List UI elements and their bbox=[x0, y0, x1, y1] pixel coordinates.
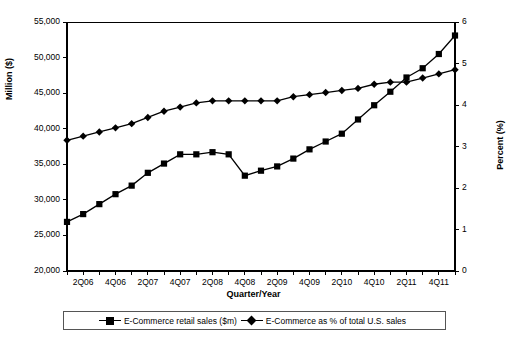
x-axis-tick-label: 4Q08 bbox=[227, 278, 263, 287]
chart-axes bbox=[63, 22, 459, 275]
y-axis-left-title: Million ($) bbox=[4, 34, 14, 124]
y-axis-left-tick-label: 30,000 bbox=[8, 195, 60, 204]
data-point-square-marker bbox=[129, 183, 135, 189]
y-axis-right-tick-label: 0 bbox=[462, 266, 486, 275]
chart-container: 20,00025,00030,00035,00040,00045,00050,0… bbox=[0, 0, 507, 340]
data-point-square-marker bbox=[226, 151, 232, 157]
data-point-square-marker bbox=[177, 151, 183, 157]
y-axis-right-tick-label: 5 bbox=[462, 59, 486, 68]
x-axis-title: Quarter/Year bbox=[0, 289, 507, 299]
legend-item-label: E-Commerce as % of total U.S. sales bbox=[263, 316, 410, 326]
data-point-square-marker bbox=[452, 32, 458, 38]
y-axis-right-tick-label: 1 bbox=[462, 225, 486, 234]
y-axis-right-tick-label: 2 bbox=[462, 183, 486, 192]
data-point-square-marker bbox=[112, 191, 118, 197]
data-point-diamond-marker bbox=[338, 87, 345, 94]
data-point-diamond-marker bbox=[257, 97, 264, 104]
data-point-square-marker bbox=[420, 65, 426, 71]
series-line bbox=[67, 36, 455, 222]
data-point-square-marker bbox=[323, 138, 329, 144]
x-axis-tick-label: 4Q11 bbox=[421, 278, 457, 287]
y-axis-left-tick-label: 40,000 bbox=[8, 124, 60, 133]
data-point-square-marker bbox=[193, 151, 199, 157]
data-point-diamond-marker bbox=[387, 78, 394, 85]
data-point-diamond-marker bbox=[176, 103, 183, 110]
y-axis-left-tick-label: 35,000 bbox=[8, 159, 60, 168]
chart-legend: E-Commerce retail sales ($m) E-Commerce … bbox=[63, 311, 446, 330]
y-axis-right-tick-label: 6 bbox=[462, 17, 486, 26]
x-axis-tick-label: 4Q06 bbox=[98, 278, 134, 287]
data-point-diamond-marker bbox=[290, 93, 297, 100]
x-axis-tick-label: 2Q09 bbox=[259, 278, 295, 287]
data-point-square-marker bbox=[339, 131, 345, 137]
data-point-diamond-marker bbox=[306, 91, 313, 98]
data-point-square-marker bbox=[387, 89, 393, 95]
data-point-square-marker bbox=[161, 160, 167, 166]
data-point-square-marker bbox=[290, 155, 296, 161]
data-point-square-marker bbox=[436, 51, 442, 57]
data-point-diamond-marker bbox=[225, 97, 232, 104]
legend-item-label: E-Commerce retail sales ($m) bbox=[121, 316, 241, 326]
x-axis-tick-label: 4Q09 bbox=[292, 278, 328, 287]
y-axis-right-title: Percent (%) bbox=[495, 100, 505, 190]
data-point-diamond-marker bbox=[354, 85, 361, 92]
x-axis-tick-label: 2Q11 bbox=[389, 278, 425, 287]
series-line bbox=[67, 70, 455, 141]
data-point-diamond-marker bbox=[144, 114, 151, 121]
x-axis-tick-label: 2Q07 bbox=[130, 278, 166, 287]
x-axis-tick-label: 2Q08 bbox=[195, 278, 231, 287]
data-point-diamond-marker bbox=[451, 66, 458, 73]
y-axis-left-tick-label: 55,000 bbox=[8, 17, 60, 26]
data-point-square-marker bbox=[96, 201, 102, 207]
data-point-diamond-marker bbox=[370, 81, 377, 88]
data-point-diamond-marker bbox=[273, 97, 280, 104]
legend-diamond-marker-icon bbox=[241, 316, 263, 326]
x-axis-tick-label: 2Q10 bbox=[324, 278, 360, 287]
data-point-diamond-marker bbox=[322, 89, 329, 96]
data-point-square-marker bbox=[355, 116, 361, 122]
y-axis-left-tick-label: 25,000 bbox=[8, 230, 60, 239]
data-point-diamond-marker bbox=[241, 97, 248, 104]
data-point-square-marker bbox=[64, 219, 70, 225]
data-point-square-marker bbox=[242, 173, 248, 179]
data-point-square-marker bbox=[274, 163, 280, 169]
data-point-diamond-marker bbox=[209, 97, 216, 104]
data-point-diamond-marker bbox=[193, 99, 200, 106]
data-point-square-marker bbox=[306, 146, 312, 152]
data-point-diamond-marker bbox=[96, 128, 103, 135]
data-point-diamond-marker bbox=[63, 137, 70, 144]
y-axis-left-tick-label: 20,000 bbox=[8, 266, 60, 275]
data-point-diamond-marker bbox=[79, 132, 86, 139]
data-point-square-marker bbox=[258, 168, 264, 174]
chart-series bbox=[63, 32, 458, 225]
data-point-square-marker bbox=[371, 102, 377, 108]
y-axis-right-tick-label: 3 bbox=[462, 142, 486, 151]
y-axis-left-tick-label: 50,000 bbox=[8, 53, 60, 62]
data-point-square-marker bbox=[145, 170, 151, 176]
data-point-diamond-marker bbox=[112, 124, 119, 131]
data-point-square-marker bbox=[80, 211, 86, 217]
data-point-diamond-marker bbox=[160, 108, 167, 115]
legend-item-retail-sales: E-Commerce retail sales ($m) bbox=[99, 316, 241, 326]
data-point-diamond-marker bbox=[419, 74, 426, 81]
data-point-diamond-marker bbox=[128, 120, 135, 127]
data-point-square-marker bbox=[209, 149, 215, 155]
legend-square-marker-icon bbox=[99, 316, 121, 326]
x-axis-tick-label: 2Q06 bbox=[65, 278, 101, 287]
x-axis-tick-label: 4Q07 bbox=[162, 278, 198, 287]
legend-item-percent-of-total: E-Commerce as % of total U.S. sales bbox=[241, 316, 410, 326]
y-axis-right-tick-label: 4 bbox=[462, 100, 486, 109]
y-axis-left-tick-label: 45,000 bbox=[8, 88, 60, 97]
x-axis-tick-label: 4Q10 bbox=[356, 278, 392, 287]
data-point-diamond-marker bbox=[435, 70, 442, 77]
